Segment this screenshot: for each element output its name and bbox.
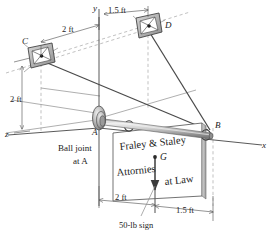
center-of-gravity-dot (153, 155, 157, 159)
label-b: B (215, 120, 221, 130)
label-c: C (22, 36, 29, 46)
dim-label-top-2ft: 2 ft (62, 24, 74, 34)
caption-ball-joint-line2: at A (73, 156, 88, 166)
dim-label-bottom-1_5ft: 1.5 ft (176, 205, 195, 215)
cable-cb (45, 62, 208, 130)
ref-line-c-in (41, 88, 100, 96)
statics-diagram-svg: y x z Fraley & Staley Attornies at Law G (0, 0, 269, 241)
figure-canvas: y x z Fraley & Staley Attornies at Law G (0, 0, 269, 241)
wall-bracket-d (136, 13, 162, 38)
dim-left2-ext-top (14, 58, 30, 62)
axis-label-x: x (261, 140, 266, 150)
bracket-c-anchor-dot (40, 54, 44, 58)
ref-line-left-bottom (6, 120, 96, 133)
ball-joint-ball (100, 116, 105, 126)
dim-label-left-2ft: 2 ft (10, 94, 22, 104)
bracket-d-anchor-dot (147, 24, 151, 28)
cables (45, 33, 210, 130)
dim-label-bottom-2ft: 2 ft (115, 192, 127, 202)
cable-db (150, 33, 210, 130)
dashed-ceiling (41, 12, 190, 58)
axis-label-z: z (4, 129, 9, 139)
label-a: A (91, 127, 98, 137)
axis-label-y: y (92, 3, 97, 13)
label-g: G (160, 152, 167, 162)
axis-z (8, 128, 99, 135)
boom-end-cap (209, 133, 213, 139)
label-50lb-sign: 50-lb sign (119, 220, 154, 230)
ref-line-left-mid (12, 100, 96, 113)
label-d: D (164, 20, 172, 30)
caption-ball-joint-line1: Ball joint (58, 143, 92, 153)
dim-label-top-1_5ft: 1.5 ft (108, 5, 127, 15)
